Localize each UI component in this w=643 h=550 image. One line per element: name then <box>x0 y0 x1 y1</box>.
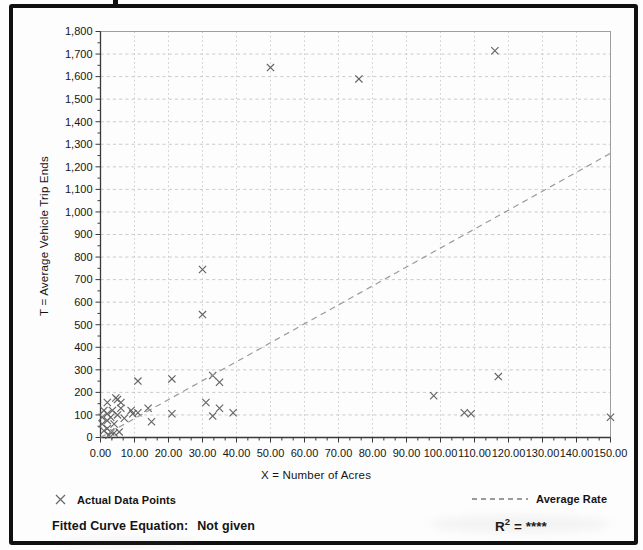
y-tick-label: 1,000 <box>65 206 93 218</box>
average-rate-line <box>101 153 611 437</box>
data-point-marker <box>209 413 216 420</box>
y-tick-label: 1,200 <box>65 161 93 173</box>
data-point-marker <box>107 414 114 421</box>
y-tick-label: 900 <box>74 228 92 240</box>
x-tick-label: 140.00 <box>560 447 594 459</box>
data-point-marker <box>267 64 274 71</box>
data-point-marker <box>468 410 475 417</box>
x-tick-label: 40.00 <box>223 447 251 459</box>
tick-labels: 01002003004005006007008009001,0001,1001,… <box>65 25 627 458</box>
scan-artifact <box>430 515 610 533</box>
x-tick-label: 150.00 <box>594 447 628 459</box>
fitted-equation: Fitted Curve Equation:Not given <box>52 519 255 533</box>
y-tick-label: 100 <box>74 409 92 421</box>
y-tick-label: 1,700 <box>65 48 93 60</box>
y-tick-label: 500 <box>74 319 92 331</box>
scatter-series <box>99 47 615 439</box>
y-tick-label: 800 <box>74 251 92 263</box>
y-tick-label: 1,300 <box>65 138 93 150</box>
legend-actual-label: Actual Data Points <box>77 494 176 506</box>
scanned-chart-page: 01002003004005006007008009001,0001,1001,… <box>0 0 643 550</box>
dashed-line-icon <box>472 498 528 500</box>
y-tick-label: 400 <box>74 341 92 353</box>
x-marker-icon <box>54 493 67 506</box>
x-tick-label: 100.00 <box>424 447 458 459</box>
fitted-equation-label: Fitted Curve Equation: <box>52 519 188 533</box>
x-tick-label: 130.00 <box>526 447 560 459</box>
x-tick-label: 70.00 <box>325 447 353 459</box>
data-point-marker <box>495 373 502 380</box>
data-point-marker <box>199 311 206 318</box>
fitted-equation-value: Not given <box>197 519 255 533</box>
y-tick-label: 1,400 <box>65 116 93 128</box>
x-tick-label: 120.00 <box>492 447 526 459</box>
data-point-marker <box>121 415 128 422</box>
x-tick-label: 50.00 <box>257 447 285 459</box>
y-tick-label: 1,600 <box>65 70 93 82</box>
axis-ticks <box>96 32 611 443</box>
data-point-marker <box>117 405 124 412</box>
data-point-marker <box>216 379 223 386</box>
data-point-marker <box>116 428 123 435</box>
data-point-marker <box>491 47 498 54</box>
scan-artifact <box>60 538 200 547</box>
x-tick-label: 20.00 <box>155 447 183 459</box>
x-tick-label: 30.00 <box>189 447 217 459</box>
data-point-marker <box>111 420 118 427</box>
x-tick-label: 0.00 <box>90 447 111 459</box>
data-point-marker <box>129 410 136 417</box>
legend-rate-label: Average Rate <box>536 493 607 505</box>
y-tick-label: 1,100 <box>65 183 93 195</box>
y-tick-label: 1,800 <box>65 25 93 37</box>
y-tick-label: 0 <box>86 431 92 443</box>
x-tick-label: 90.00 <box>393 447 421 459</box>
x-tick-label: 110.00 <box>458 447 491 459</box>
data-point-marker <box>216 405 223 412</box>
legend-actual-item: Actual Data Points <box>54 493 176 506</box>
data-point-marker <box>148 418 155 425</box>
y-tick-label: 700 <box>74 273 92 285</box>
data-point-marker <box>199 266 206 273</box>
data-point-marker <box>430 392 437 399</box>
y-tick-label: 1,500 <box>65 93 93 105</box>
data-point-marker <box>202 399 209 406</box>
y-axis-title: T = Average Vehicle Trip Ends <box>38 156 50 316</box>
data-point-marker <box>168 410 175 417</box>
data-point-marker <box>134 378 141 385</box>
data-point-marker <box>168 375 175 382</box>
x-tick-label: 60.00 <box>291 447 319 459</box>
data-point-marker <box>104 399 111 406</box>
data-point-marker <box>461 409 468 416</box>
y-tick-label: 600 <box>74 296 92 308</box>
x-tick-label: 80.00 <box>359 447 387 459</box>
gridlines <box>101 32 611 438</box>
x-axis-title: X = Number of Acres <box>261 469 371 481</box>
data-point-marker <box>355 75 362 82</box>
legend-rate-item: Average Rate <box>472 493 607 505</box>
chart-svg: 01002003004005006007008009001,0001,1001,… <box>0 0 643 550</box>
y-tick-label: 300 <box>74 364 92 376</box>
x-tick-label: 10.00 <box>121 447 149 459</box>
y-tick-label: 200 <box>74 386 92 398</box>
